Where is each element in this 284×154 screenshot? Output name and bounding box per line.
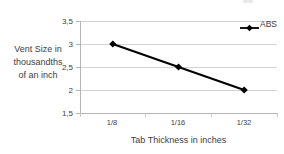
- y-tick-label-2-5: 2,5: [49, 64, 73, 72]
- legend-line-diamond-icon: [240, 23, 259, 33]
- x-tick-mark-2: [211, 113, 212, 117]
- scan-artifact: [243, 0, 253, 3]
- x-tick-mark-0: [80, 113, 81, 117]
- x-tick-label-1-8: 1/8: [90, 118, 134, 127]
- x-tick-label-1-32: 1/32: [222, 118, 266, 127]
- x-tick-label-1-16: 1/16: [156, 118, 200, 127]
- y-axis-line: [80, 21, 81, 114]
- x-tick-mark-1: [145, 113, 146, 117]
- chart-screenshot: Vent Size in thousandths of an inch 3,5 …: [0, 0, 284, 154]
- legend-label-abs: ABS: [260, 19, 277, 29]
- legend: ABS: [240, 18, 277, 30]
- x-axis-title: Tab Thickness in inches: [80, 135, 277, 146]
- y-tick-label-3-5: 3,5: [49, 18, 73, 26]
- gridline-2: [80, 90, 277, 91]
- y-tick-label-3: 3: [49, 41, 73, 49]
- x-axis-line: [80, 113, 278, 114]
- x-tick-mark-3: [277, 113, 278, 117]
- gridline-3: [80, 44, 277, 45]
- legend-marker-abs: [240, 19, 259, 29]
- y-tick-label-2: 2: [49, 87, 73, 95]
- gridline-2-5: [80, 67, 277, 68]
- y-tick-label-1-5: 1,5: [49, 110, 73, 118]
- plot-area: [80, 21, 277, 113]
